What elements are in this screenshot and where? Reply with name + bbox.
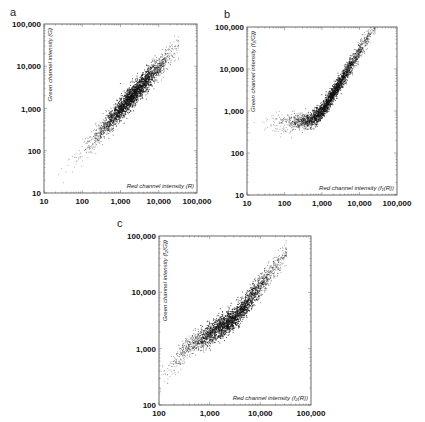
scatter-points bbox=[58, 36, 178, 194]
x-tick-label: 1,000 bbox=[110, 197, 131, 206]
scatter-plot-c: 1001,00010,000100,0001001,00010,000100,0… bbox=[100, 210, 330, 422]
x-tick-label: 1,000 bbox=[200, 409, 221, 418]
y-tick-label: 100 bbox=[143, 401, 157, 410]
x-axis-title: Red channel intensity (R) bbox=[127, 183, 194, 189]
x-tick-label: 10 bbox=[243, 199, 252, 208]
y-tick-label: 10,000 bbox=[17, 62, 42, 71]
panel-a: a 101001,00010,000100,000101001,00010,00… bbox=[0, 0, 212, 210]
scatter-plot-a: 101001,00010,000100,000101001,00010,0001… bbox=[0, 0, 212, 210]
y-tick-label: 10,000 bbox=[132, 288, 157, 297]
x-tick-label: 1,000 bbox=[312, 199, 333, 208]
y-tick-label: 100 bbox=[231, 149, 245, 158]
y-tick-label: 10 bbox=[32, 189, 41, 198]
x-axis-title: Red channel intensity (f₁(R)) bbox=[319, 185, 394, 191]
x-axis-title: Red channel intensity (f₂(R)) bbox=[233, 395, 308, 401]
y-tick-label: 100 bbox=[28, 147, 42, 156]
y-axis-title: Green channel intensity (f₂(G)) bbox=[162, 240, 168, 321]
y-axis-title: Green channel intensity (G) bbox=[47, 28, 53, 101]
y-tick-label: 1,000 bbox=[21, 105, 42, 114]
y-tick-label: 10 bbox=[235, 191, 244, 200]
scatter-plot-b: 101001,00010,000100,000101001,00010,0001… bbox=[212, 0, 425, 210]
scatter-points bbox=[159, 240, 286, 394]
panel-b: b 101001,00010,000100,000101001,00010,00… bbox=[212, 0, 425, 210]
x-tick-label: 100 bbox=[76, 197, 90, 206]
x-tick-label: 10,000 bbox=[347, 199, 372, 208]
y-tick-label: 1,000 bbox=[136, 345, 157, 354]
scatter-points bbox=[247, 27, 375, 138]
y-tick-label: 100,000 bbox=[12, 20, 41, 29]
x-tick-label: 100,000 bbox=[297, 409, 326, 418]
y-tick-label: 10,000 bbox=[220, 65, 245, 74]
y-tick-label: 100,000 bbox=[127, 232, 156, 241]
x-tick-label: 10 bbox=[40, 197, 49, 206]
x-tick-label: 10,000 bbox=[147, 197, 172, 206]
y-tick-label: 1,000 bbox=[224, 107, 245, 116]
x-tick-label: 100,000 bbox=[183, 197, 212, 206]
x-tick-label: 100 bbox=[152, 409, 166, 418]
x-tick-label: 10,000 bbox=[248, 409, 273, 418]
x-tick-label: 100 bbox=[278, 199, 292, 208]
x-tick-label: 100,000 bbox=[383, 199, 412, 208]
y-tick-label: 100,000 bbox=[215, 23, 244, 32]
panel-c: c 1001,00010,000100,0001001,00010,000100… bbox=[100, 210, 330, 422]
y-axis-title: Green channel intensity (f₁(G)) bbox=[250, 31, 256, 112]
